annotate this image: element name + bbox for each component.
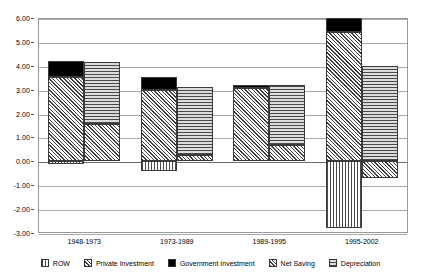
y-tick-label: -3.00 [14, 230, 30, 237]
bar-segment [141, 161, 177, 171]
y-tick-label: 0.00 [16, 158, 30, 165]
y-tick-mark [31, 90, 34, 91]
y-tick-mark [31, 185, 34, 186]
bar-segment [269, 145, 305, 162]
solid-black-swatch [168, 259, 176, 267]
bar-segment [362, 161, 398, 178]
bar-segment [48, 61, 84, 77]
y-tick-label: 2.00 [16, 110, 30, 117]
y-axis: 6.005.004.003.002.001.000.00-1.00-2.00-3… [0, 18, 34, 233]
bar-segment [141, 90, 177, 162]
bar-segment [326, 161, 362, 228]
y-tick-mark [31, 18, 34, 19]
x-tick-label: 1973-1989 [160, 238, 193, 245]
y-tick-mark [31, 66, 34, 67]
y-tick-label: 3.00 [16, 86, 30, 93]
diagonal-hatch-swatch [84, 259, 92, 267]
vertical-stripes-swatch [41, 259, 49, 267]
bar-segment [269, 85, 305, 144]
bar-segment [84, 62, 120, 124]
bar-segment [84, 124, 120, 161]
y-tick-mark [31, 42, 34, 43]
legend-item-label: Net Saving [281, 260, 315, 267]
legend-item[interactable]: Private Investment [84, 259, 154, 267]
x-tick-label: 1948-1973 [68, 238, 101, 245]
bars-layer [38, 18, 408, 233]
chart-legend: ROWPrivate InvestmentGovernment Investme… [0, 255, 421, 271]
bar-segment [326, 18, 362, 31]
y-tick-mark [31, 233, 34, 234]
bar-segment [177, 155, 213, 161]
bar-segment [141, 77, 177, 90]
horizontal-stripes-swatch [329, 259, 337, 267]
bar-chart: 6.005.004.003.002.001.000.00-1.00-2.00-3… [0, 0, 421, 278]
legend-item[interactable]: Depreciation [329, 259, 380, 267]
legend-item-label: Depreciation [341, 260, 380, 267]
legend-item[interactable]: ROW [41, 259, 70, 267]
x-tick-label: 1995-2002 [345, 238, 378, 245]
y-tick-mark [31, 114, 34, 115]
legend-item-label: Government Investment [180, 260, 255, 267]
cross-hatch-swatch [269, 259, 277, 267]
legend-item[interactable]: Government Investment [168, 259, 255, 267]
y-tick-label: 5.00 [16, 38, 30, 45]
y-tick-label: 1.00 [16, 134, 30, 141]
x-tick-label: 1989-1995 [253, 238, 286, 245]
y-tick-mark [31, 161, 34, 162]
bar-segment [48, 161, 84, 163]
legend-item[interactable]: Net Saving [269, 259, 315, 267]
y-tick-label: -1.00 [14, 182, 30, 189]
bar-segment [233, 88, 269, 162]
legend-item-label: ROW [53, 260, 70, 267]
bar-segment [326, 32, 362, 161]
legend-item-label: Private Investment [96, 260, 154, 267]
y-tick-mark [31, 209, 34, 210]
bar-segment [48, 77, 84, 162]
y-tick-label: -2.00 [14, 206, 30, 213]
bar-segment [233, 85, 269, 87]
bar-segment [362, 66, 398, 161]
y-tick-label: 6.00 [16, 15, 30, 22]
y-tick-label: 4.00 [16, 62, 30, 69]
y-tick-mark [31, 137, 34, 138]
bar-segment [177, 87, 213, 155]
gridline [39, 234, 407, 235]
x-axis: 1948-19731973-19891989-19951995-2002 [38, 238, 408, 250]
